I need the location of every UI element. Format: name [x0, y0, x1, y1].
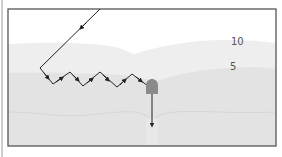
layer-label-5: 5	[230, 61, 236, 72]
cross-section-diagram: 10 5	[0, 0, 282, 157]
dome-icon	[146, 79, 158, 94]
layer-label-10: 10	[231, 36, 244, 47]
